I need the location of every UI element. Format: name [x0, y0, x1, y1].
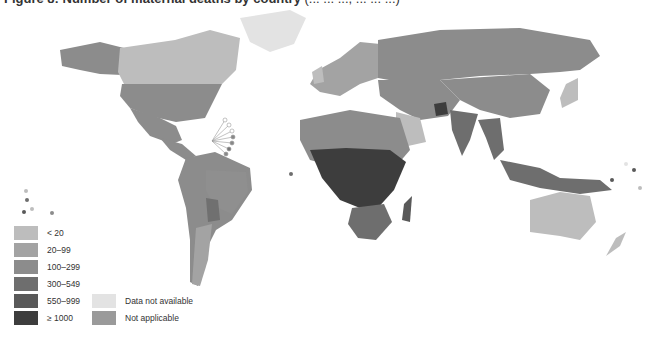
- region-uk: [312, 66, 324, 84]
- legend-label: 550–999: [47, 296, 80, 306]
- region-australia: [530, 192, 596, 240]
- legend-swatch: [14, 277, 38, 291]
- legend-label: Data not available: [125, 296, 193, 306]
- africa: [300, 110, 412, 240]
- legend-swatch: [14, 226, 38, 240]
- region-canada: [118, 30, 240, 84]
- legend-swatch: [14, 243, 38, 257]
- europe: [310, 42, 380, 96]
- region-southern-africa: [348, 204, 392, 240]
- oceania: [530, 192, 626, 256]
- region-madagascar: [402, 196, 412, 222]
- caribbean-callouts: [212, 118, 235, 156]
- legend-label: Not applicable: [125, 313, 179, 323]
- region-indonesia-png: [500, 160, 612, 194]
- region-southeast-asia: [478, 118, 504, 160]
- legend-swatch: [92, 311, 116, 325]
- legend-item-data-not-available: Data not available: [92, 294, 193, 308]
- region-greenland: [240, 10, 306, 52]
- legend-label: 300–549: [47, 279, 80, 289]
- legend-item-lt20: < 20: [14, 226, 64, 240]
- legend-label: 100–299: [47, 262, 80, 272]
- legend-item-300-549: 300–549: [14, 277, 80, 291]
- legend-item-550-999: 550–999: [14, 294, 80, 308]
- world-map: [0, 0, 657, 343]
- asia: [378, 28, 612, 194]
- region-central-africa: [310, 148, 406, 210]
- legend-label: ≥ 1000: [47, 313, 73, 323]
- region-india: [450, 110, 478, 156]
- region-new-zealand: [606, 232, 626, 256]
- legend-swatch: [14, 294, 38, 308]
- region-russia: [378, 28, 600, 82]
- legend-item-20-99: 20–99: [14, 243, 71, 257]
- legend-swatch: [14, 260, 38, 274]
- legend-swatch: [92, 294, 116, 308]
- legend-label: 20–99: [47, 245, 71, 255]
- region-bolivia: [206, 198, 220, 222]
- north-america: [60, 10, 306, 160]
- legend-item-gte1000: ≥ 1000: [14, 311, 73, 325]
- region-japan: [560, 78, 578, 108]
- legend-item-100-299: 100–299: [14, 260, 80, 274]
- south-america: [178, 152, 252, 286]
- region-alaska: [60, 42, 124, 75]
- legend-swatch: [14, 311, 38, 325]
- legend-label: < 20: [47, 228, 64, 238]
- legend-item-not-applicable: Not applicable: [92, 311, 179, 325]
- region-afghanistan: [434, 102, 448, 116]
